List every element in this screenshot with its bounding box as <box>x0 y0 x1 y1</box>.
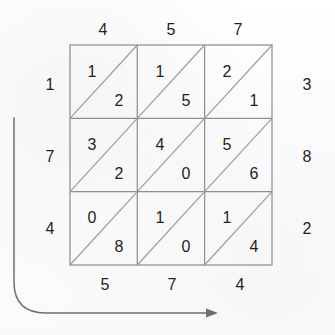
cell-r2c3-lower: 6 <box>246 166 262 182</box>
right-label-row2: 8 <box>297 149 317 165</box>
cell-r1c2-upper: 1 <box>152 64 168 80</box>
top-label-col3: 7 <box>228 22 248 38</box>
cell-r3c1-lower: 8 <box>111 239 127 255</box>
cell-r2c2-lower: 0 <box>178 166 194 182</box>
top-label-col2: 5 <box>161 22 181 38</box>
bottom-label-col1: 5 <box>95 277 115 293</box>
cell-r2c2-upper: 4 <box>152 137 168 153</box>
cell-r3c3-upper: 1 <box>219 210 235 226</box>
cell-r1c3-upper: 2 <box>219 64 235 80</box>
bottom-label-col3: 4 <box>230 277 250 293</box>
cell-r1c3-lower: 1 <box>246 93 262 109</box>
cell-r2c1-lower: 2 <box>111 166 127 182</box>
cell-r3c2-lower: 0 <box>178 239 194 255</box>
puzzle-canvas: 4 5 7 1 7 4 3 8 2 5 7 4 1 2 1 5 2 1 3 2 … <box>0 0 335 335</box>
cell-r3c2-upper: 1 <box>152 210 168 226</box>
left-label-row1: 1 <box>40 77 60 93</box>
arrowhead-icon <box>206 309 218 318</box>
cell-r2c3-upper: 5 <box>219 137 235 153</box>
cell-r1c1-lower: 2 <box>111 93 127 109</box>
cell-r1c1-upper: 1 <box>84 64 100 80</box>
left-label-row3: 4 <box>40 221 60 237</box>
right-label-row3: 2 <box>297 221 317 237</box>
left-label-row2: 7 <box>40 149 60 165</box>
bottom-label-col2: 7 <box>162 277 182 293</box>
cell-r1c2-lower: 5 <box>178 93 194 109</box>
right-label-row1: 3 <box>297 77 317 93</box>
cell-r3c3-lower: 4 <box>246 239 262 255</box>
top-label-col1: 4 <box>93 22 113 38</box>
cell-r2c1-upper: 3 <box>84 137 100 153</box>
cell-r3c1-upper: 0 <box>84 210 100 226</box>
